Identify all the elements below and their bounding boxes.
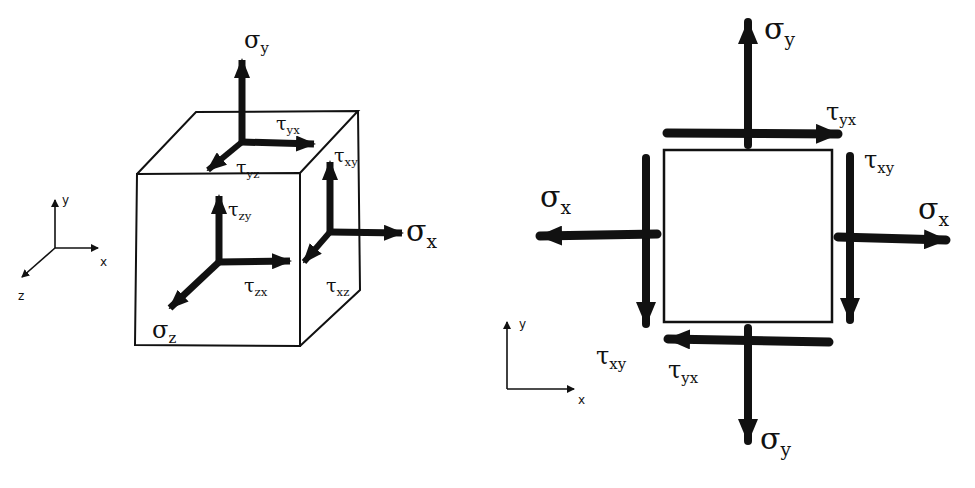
tau-zx-arrow (219, 261, 290, 262)
label-tau-xy: τxy (334, 146, 358, 169)
axis-label-y: y (62, 194, 69, 206)
stress-cube (135, 111, 360, 346)
label-tau-yz: τyz (236, 158, 259, 181)
cube-force-arrows (170, 60, 402, 308)
sigma-x-right-arrow (838, 237, 946, 240)
tau-yx-arrow (242, 142, 314, 144)
square-force-arrows (540, 22, 946, 441)
label-sigma-y-top: σy (764, 14, 795, 49)
label-tau-yx-bottom: τyx (668, 358, 698, 386)
label-sigma-y-bottom: σy (760, 424, 791, 459)
label-sigma-z: σz (152, 318, 176, 346)
axis-label-x: x (100, 256, 107, 268)
label-tau-xy-right: τxy (864, 148, 894, 176)
label-sigma-x: σx (406, 216, 437, 251)
label-tau-yx: τyx (276, 114, 300, 137)
axis-label-y-2d: y (519, 318, 526, 330)
sigma-x-left-arrow (540, 234, 657, 236)
tau-yx-top-arrow (667, 133, 838, 134)
stress-diagram-canvas (0, 0, 975, 488)
label-sigma-y: σy (244, 28, 269, 56)
label-tau-yx-top: τyx (826, 100, 856, 128)
label-tau-xz: τxz (326, 276, 349, 299)
label-tau-zy: τzy (228, 200, 251, 223)
label-tau-zx: τzx (244, 276, 267, 299)
label-sigma-x-right: σx (918, 194, 949, 229)
xyz-axes-icon (22, 200, 98, 277)
tau-xz-arrow (304, 232, 330, 262)
label-tau-xy-left: τxy (596, 344, 626, 372)
axis-label-z: z (18, 290, 24, 302)
sigma-z-arrow (170, 262, 219, 308)
sigma-x-arrow (330, 232, 402, 233)
stress-element-square (664, 150, 832, 322)
axis-label-x-2d: x (578, 394, 585, 406)
label-sigma-x-left: σx (540, 182, 571, 217)
xy-axes-icon (507, 322, 574, 389)
